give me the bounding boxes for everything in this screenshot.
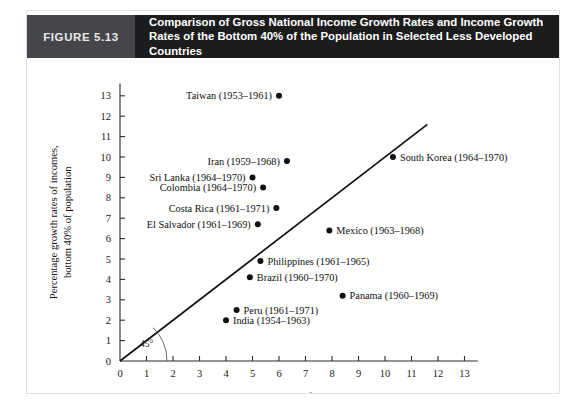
x-axis-ticks: 012345678910111213 bbox=[117, 356, 469, 379]
x-tick-label: 13 bbox=[459, 368, 470, 379]
y-tick-label: 1 bbox=[106, 335, 111, 346]
x-tick-label: 2 bbox=[170, 368, 175, 379]
data-point-label: Panama (1960–1969) bbox=[350, 290, 438, 302]
data-point: Mexico (1963–1968) bbox=[326, 225, 423, 237]
data-point-marker bbox=[223, 317, 229, 323]
data-points: Taiwan (1953–1961)Iran (1959–1968)South … bbox=[147, 90, 508, 326]
data-point-label: Colombia (1964–1970) bbox=[160, 182, 256, 194]
x-tick-label: 7 bbox=[303, 368, 308, 379]
data-point-label: El Salvador (1961–1969) bbox=[147, 219, 251, 231]
x-tick-label: 5 bbox=[250, 368, 255, 379]
data-point-marker bbox=[340, 293, 346, 299]
data-point: Iran (1959–1968) bbox=[208, 156, 290, 168]
x-tick-label: 4 bbox=[223, 368, 229, 379]
data-point-label: Philippines (1961–1965) bbox=[267, 256, 369, 268]
data-point-marker bbox=[260, 185, 266, 191]
y-tick-label: 0 bbox=[106, 356, 111, 367]
y-axis-ticks: 012345678910111213 bbox=[101, 90, 126, 366]
x-tick-label: 6 bbox=[276, 368, 281, 379]
chart-plot-area: 45° 012345678910111213 01234567891011121… bbox=[27, 58, 559, 393]
y-tick-label: 6 bbox=[106, 233, 111, 244]
y-tick-label: 13 bbox=[101, 90, 112, 101]
data-point: Colombia (1964–1970) bbox=[160, 182, 266, 194]
y-tick-label: 8 bbox=[106, 192, 111, 203]
y-tick-label: 3 bbox=[106, 294, 111, 305]
x-tick-label: 10 bbox=[380, 368, 391, 379]
x-axis-title: Percentage growth rate of gross national… bbox=[203, 391, 408, 393]
data-point: Philippines (1961–1965) bbox=[257, 256, 369, 268]
y-tick-label: 7 bbox=[106, 213, 111, 224]
y-tick-label: 10 bbox=[101, 152, 112, 163]
data-point: South Korea (1964–1970) bbox=[390, 152, 508, 164]
data-point-label: Costa Rica (1961–1971) bbox=[169, 203, 270, 215]
figure-number-label: FIGURE 5.13 bbox=[43, 31, 119, 43]
figure-header-banner: FIGURE 5.13 Comparison of Gross National… bbox=[27, 15, 559, 58]
x-tick-label: 8 bbox=[329, 368, 334, 379]
data-point-marker bbox=[276, 93, 282, 99]
data-point-marker bbox=[257, 258, 263, 264]
y-tick-label: 2 bbox=[106, 315, 111, 326]
data-point: Brazil (1960–1970) bbox=[247, 272, 338, 284]
x-tick-label: 0 bbox=[117, 368, 122, 379]
data-point-marker bbox=[326, 227, 332, 233]
x-tick-label: 9 bbox=[356, 368, 361, 379]
data-point-marker bbox=[284, 158, 290, 164]
data-point-label: South Korea (1964–1970) bbox=[400, 152, 508, 164]
data-point-label: Mexico (1963–1968) bbox=[336, 225, 423, 237]
y-tick-label: 12 bbox=[101, 111, 112, 122]
y-axis-title-line1: Percentage growth rates of incomes, bbox=[48, 145, 59, 299]
angle-arc bbox=[153, 328, 167, 361]
data-point-marker bbox=[255, 221, 261, 227]
angle-label-45: 45° bbox=[140, 339, 154, 349]
data-point: Panama (1960–1969) bbox=[340, 290, 438, 302]
data-point-marker bbox=[234, 307, 240, 313]
x-tick-label: 1 bbox=[144, 368, 149, 379]
figure-title-line2: the Bottom 40% of the Population in Sele… bbox=[149, 30, 533, 57]
figure-container: FIGURE 5.13 Comparison of Gross National… bbox=[26, 10, 560, 394]
y-tick-label: 4 bbox=[106, 274, 112, 285]
data-point-marker bbox=[390, 154, 396, 160]
data-point-marker bbox=[273, 205, 279, 211]
data-point: India (1954–1963) bbox=[223, 315, 310, 327]
data-point-marker bbox=[247, 274, 253, 280]
data-point-label: Brazil (1960–1970) bbox=[257, 272, 338, 284]
y-tick-label: 9 bbox=[106, 172, 111, 183]
data-point-label: India (1954–1963) bbox=[233, 315, 310, 327]
x-tick-label: 11 bbox=[406, 368, 416, 379]
data-point: El Salvador (1961–1969) bbox=[147, 219, 261, 231]
y-axis-title-line2: bottom 40% of population bbox=[62, 166, 73, 278]
scatter-chart: 45° 012345678910111213 01234567891011121… bbox=[27, 58, 559, 393]
data-point-marker bbox=[250, 174, 256, 180]
data-point-label: Taiwan (1953–1961) bbox=[186, 90, 272, 102]
figure-title: Comparison of Gross National Income Grow… bbox=[135, 15, 559, 59]
y-tick-label: 11 bbox=[101, 131, 111, 142]
y-tick-label: 5 bbox=[106, 254, 111, 265]
data-point: Costa Rica (1961–1971) bbox=[169, 203, 280, 215]
data-point: Taiwan (1953–1961) bbox=[186, 90, 282, 102]
x-tick-label: 12 bbox=[433, 368, 444, 379]
x-tick-label: 3 bbox=[197, 368, 202, 379]
data-point-label: Iran (1959–1968) bbox=[208, 156, 280, 168]
figure-number-block: FIGURE 5.13 bbox=[27, 15, 135, 58]
